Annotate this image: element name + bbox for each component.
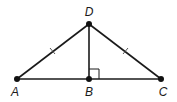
point-d <box>86 21 92 27</box>
point-b <box>86 76 92 82</box>
geometry-diagram: D A B C <box>0 0 177 102</box>
point-c <box>158 76 164 82</box>
label-a: A <box>10 85 19 99</box>
label-d: D <box>85 5 94 19</box>
point-a <box>14 76 20 82</box>
label-c: C <box>159 85 168 99</box>
label-b: B <box>85 85 93 99</box>
